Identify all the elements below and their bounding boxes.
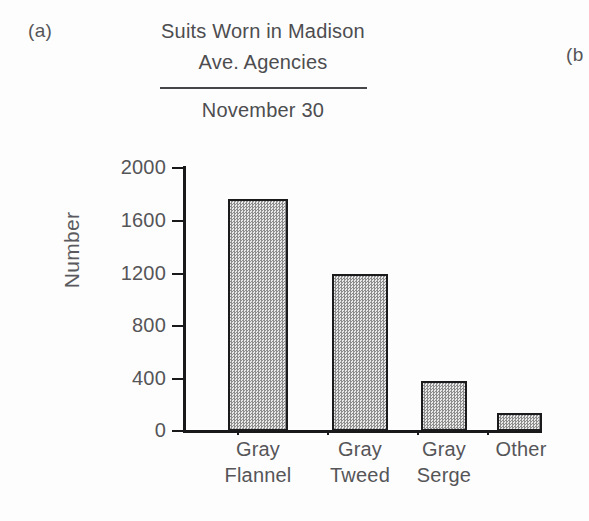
x-tick-mark	[417, 430, 419, 435]
x-category-line-1: Gray	[236, 438, 280, 460]
x-category-line-2: Tweed	[311, 462, 409, 488]
bar-chart-plot-area: Number 2000 1600 1200 800 400 0	[0, 0, 589, 521]
y-tick-label: 1600	[104, 209, 166, 232]
x-category-line-1: Gray	[338, 438, 382, 460]
y-tick-mark	[172, 220, 183, 222]
y-tick-label: 2000	[104, 156, 166, 179]
x-category-label-gray-serge: Gray Serge	[396, 436, 492, 488]
x-category-label-gray-tweed: Gray Tweed	[311, 436, 409, 488]
y-axis-label: Number	[60, 170, 84, 330]
bar-gray-flannel	[228, 199, 288, 431]
y-tick-mark	[172, 430, 183, 432]
x-category-line-1: Gray	[422, 438, 466, 460]
y-tick-label: 400	[104, 367, 166, 390]
bar-other	[497, 413, 542, 431]
y-tick-mark	[172, 273, 183, 275]
figure-panel-a: (a) (b Suits Worn in Madison Ave. Agenci…	[0, 0, 589, 521]
y-tick-label: 0	[104, 419, 166, 442]
y-tick-label: 800	[104, 314, 166, 337]
x-category-line-2: Flannel	[208, 462, 308, 488]
y-tick-mark	[172, 325, 183, 327]
x-tick-mark	[327, 430, 329, 435]
bar-gray-serge	[421, 381, 467, 431]
y-tick-label: 1200	[104, 262, 166, 285]
x-category-label-other: Other	[479, 436, 563, 462]
y-tick-mark	[172, 167, 183, 169]
x-tick-mark	[487, 430, 489, 435]
y-tick-mark	[172, 378, 183, 380]
bar-gray-tweed	[332, 274, 388, 431]
x-category-line-2: Serge	[396, 462, 492, 488]
x-category-label-gray-flannel: Gray Flannel	[208, 436, 308, 488]
y-axis-spine	[183, 166, 186, 432]
x-category-line-1: Other	[495, 438, 546, 460]
